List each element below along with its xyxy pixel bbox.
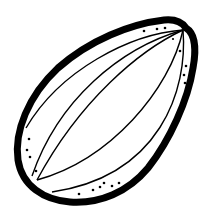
almond-outline xyxy=(17,20,194,202)
almond-drawing xyxy=(0,0,211,216)
inner-lines xyxy=(26,30,184,192)
speckle-dots xyxy=(26,27,188,196)
almond-illustration: Black and white outline illustration of … xyxy=(0,0,211,216)
